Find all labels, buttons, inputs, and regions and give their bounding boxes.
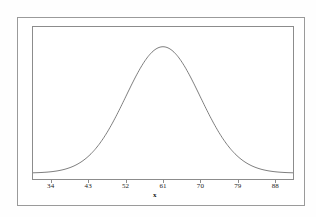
plot-area [32,26,294,180]
x-tick-label: 79 [228,182,248,191]
x-axis-label: x [18,191,308,200]
normal-distribution-curve [33,27,293,179]
x-tick-label: 61 [153,182,173,191]
x-tick-label: 43 [78,182,98,191]
x-tick-label: 88 [265,182,285,191]
figure-canvas: 34435261707988 x [0,0,316,217]
x-tick-label: 70 [190,182,210,191]
x-tick-label: 34 [41,182,61,191]
x-tick-label: 52 [116,182,136,191]
figure-outer-border: 34435261707988 x [17,17,305,206]
